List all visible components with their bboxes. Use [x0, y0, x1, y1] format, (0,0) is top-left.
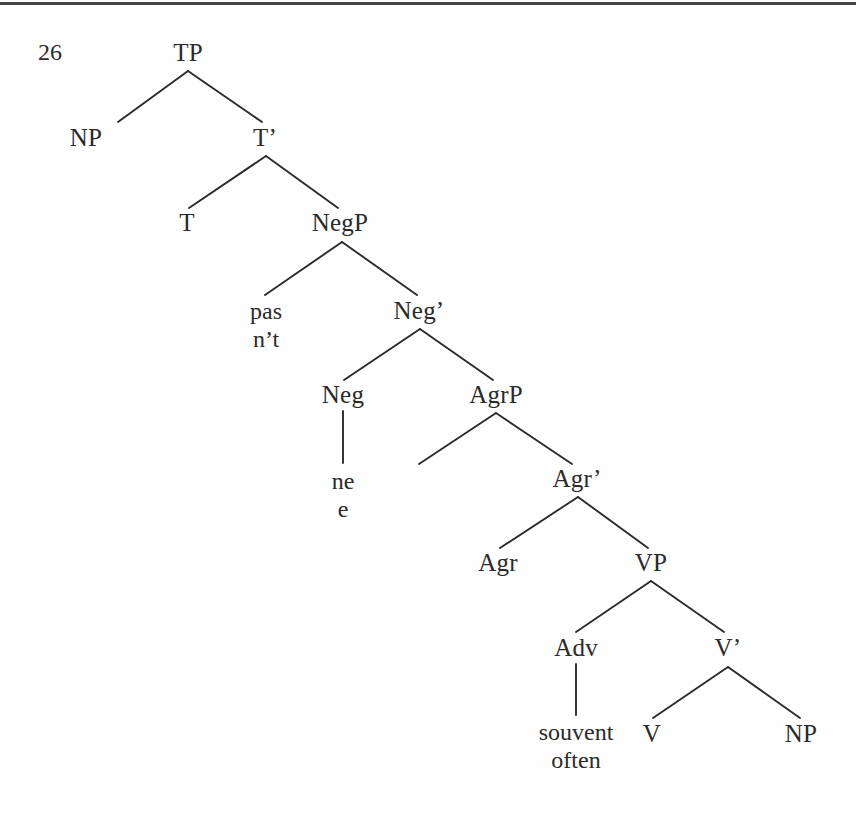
terminal-word: souvent	[539, 719, 614, 747]
terminal-gloss: n’t	[250, 326, 282, 354]
tree-node-neg: Neg	[322, 382, 364, 407]
tree-branch-Negbar-Neg	[344, 329, 420, 380]
tree-node-t: T	[179, 210, 194, 235]
tree-node-adv: Adv	[554, 635, 598, 660]
tree-node-agrp: AgrP	[469, 382, 523, 407]
tree-branch-Agrbar-Agr	[500, 497, 578, 548]
tree-terminal-neg-spec-terminal: pasn’t	[250, 298, 282, 354]
tree-node-np2: NP	[785, 721, 817, 746]
tree-branch-Tbar-T	[189, 156, 266, 208]
example-number: 26	[38, 39, 62, 66]
terminal-word: ne	[332, 468, 355, 496]
tree-node-agrbar: Agr’	[553, 466, 602, 491]
tree-branch-VP-Vbar	[651, 581, 724, 632]
tree-node-tbar: T’	[253, 125, 277, 150]
tree-node-vbar: V’	[715, 635, 742, 660]
tree-branch-Tbar-NegP	[266, 156, 338, 208]
tree-node-negp: NegP	[312, 210, 368, 235]
tree-node-agr: Agr	[478, 550, 517, 575]
tree-branch-AgrP-spec	[419, 413, 496, 464]
tree-branch-Vbar-V	[653, 667, 728, 718]
terminal-word: pas	[250, 298, 282, 326]
tree-branch-NegP-Negbar	[342, 242, 417, 295]
tree-terminal-adv-terminal: souventoften	[539, 719, 614, 775]
tree-branch-AgrP-Agrbar	[496, 413, 572, 464]
tree-node-negbar: Neg’	[394, 298, 445, 323]
tree-branch-Vbar-NP2	[728, 667, 800, 718]
tree-branch-NegP-pas	[265, 242, 342, 295]
tree-node-v: V	[643, 721, 661, 746]
tree-node-tp: TP	[173, 40, 203, 65]
tree-branch-VP-Adv	[576, 581, 651, 632]
tree-branch-Agrbar-VP	[578, 497, 648, 548]
tree-branch-lines	[0, 0, 856, 817]
tree-node-vp: VP	[635, 550, 667, 575]
terminal-gloss: e	[332, 496, 355, 524]
page-edge-rule	[0, 2, 856, 5]
tree-node-np1: NP	[70, 125, 102, 150]
tree-terminal-neg-head-terminal: nee	[332, 468, 355, 524]
tree-branch-TP-Tbar	[188, 71, 262, 122]
tree-branch-TP-NP1	[118, 71, 188, 122]
syntax-tree-figure: 26 TPNPT’TNegPNeg’NegAgrPAgr’AgrVPAdvV’V…	[0, 0, 856, 817]
terminal-gloss: often	[539, 747, 614, 775]
tree-branch-Negbar-AgrP	[420, 329, 493, 380]
